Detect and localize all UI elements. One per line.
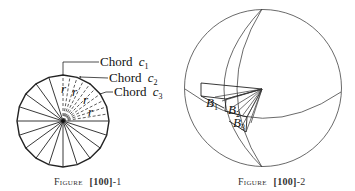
- figure-1-caption: Figure [100]-1: [54, 176, 122, 187]
- sphere-outline: [185, 10, 342, 167]
- figure-canvas: r r r r Chord c1 Chord c2 Chord c3: [0, 0, 355, 191]
- figure-2-caption: Figure [100]-2: [238, 176, 306, 187]
- label-b3: B3: [233, 115, 245, 132]
- radius-label: r: [61, 81, 67, 96]
- figure-2: [185, 9, 342, 167]
- chord-label-c1: Chord c1: [100, 54, 149, 71]
- radius-label: r: [72, 84, 78, 99]
- figure-1: r r r r Chord c1 Chord c2 Chord c3: [17, 54, 163, 187]
- chord-labels: Chord c1 Chord c2 Chord c3: [100, 54, 163, 101]
- center-point: [61, 119, 65, 123]
- chord-label-c3: Chord c3: [114, 84, 163, 101]
